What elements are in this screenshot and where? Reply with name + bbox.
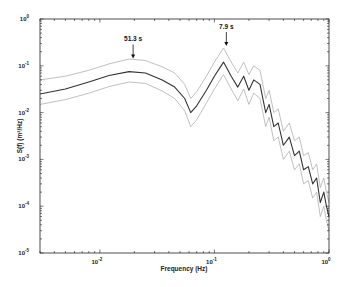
y-tick-label: 10-2 (18, 108, 29, 116)
x-axis-label: Frequency (Hz) (161, 265, 208, 273)
x-tick-label: 100 (321, 257, 331, 265)
upper-bound-line (40, 48, 329, 203)
x-tick-label: 10-2 (92, 257, 103, 265)
y-tick-label: 10-5 (18, 248, 29, 256)
axis-ticks (40, 19, 329, 253)
spectrum-line (40, 62, 329, 217)
x-tick-label: 10-1 (206, 257, 217, 265)
y-tick-label: 10-4 (18, 201, 29, 209)
peak-annotations: 51.3 s7.9 s (124, 23, 234, 58)
plot-lines (40, 48, 329, 231)
y-tick-label: 10-3 (18, 154, 29, 162)
plot-frame (40, 19, 329, 253)
axis-tick-labels: 10-210-110010010-110-210-310-410-5 (18, 14, 331, 265)
y-axis-label: S(f) (m²/Hz) (16, 119, 24, 154)
arrow-head-icon (224, 42, 228, 46)
spectral-density-chart: 10-210-110010010-110-210-310-410-5 51.3 … (0, 0, 350, 287)
y-tick-label: 100 (20, 14, 30, 22)
period-annotation: 51.3 s (124, 35, 142, 42)
y-tick-label: 10-1 (18, 61, 29, 69)
period-annotation: 7.9 s (219, 23, 234, 30)
arrow-head-icon (131, 54, 135, 58)
